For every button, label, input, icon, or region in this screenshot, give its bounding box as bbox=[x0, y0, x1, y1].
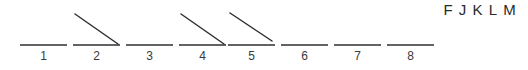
stroke-item-graphic-2 bbox=[73, 0, 120, 50]
stroke-item-2: 2 bbox=[73, 0, 120, 70]
item-number-label-6: 6 bbox=[281, 50, 328, 62]
diagonal-stroke-5 bbox=[230, 13, 272, 41]
stroke-items-layer: 12345678 bbox=[0, 0, 528, 70]
item-number-label-8: 8 bbox=[387, 50, 434, 62]
item-number-label-3: 3 bbox=[126, 50, 173, 62]
stroke-item-graphic-4 bbox=[179, 0, 226, 50]
item-number-label-2: 2 bbox=[73, 50, 120, 62]
stroke-item-graphic-5 bbox=[228, 0, 275, 50]
stroke-item-7: 7 bbox=[334, 0, 381, 70]
diagonal-stroke-2 bbox=[75, 14, 118, 44]
stroke-item-1: 1 bbox=[20, 0, 67, 70]
stroke-item-4: 4 bbox=[179, 0, 226, 70]
diagonal-stroke-4 bbox=[181, 14, 224, 44]
stroke-item-8: 8 bbox=[387, 0, 434, 70]
stroke-item-graphic-7 bbox=[334, 0, 381, 50]
item-number-label-5: 5 bbox=[228, 50, 275, 62]
stroke-item-graphic-1 bbox=[20, 0, 67, 50]
item-number-label-7: 7 bbox=[334, 50, 381, 62]
stroke-item-graphic-3 bbox=[126, 0, 173, 50]
stroke-item-graphic-6 bbox=[281, 0, 328, 50]
item-number-label-1: 1 bbox=[20, 50, 67, 62]
stroke-item-3: 3 bbox=[126, 0, 173, 70]
stroke-item-graphic-8 bbox=[387, 0, 434, 50]
stroke-item-6: 6 bbox=[281, 0, 328, 70]
stroke-item-5: 5 bbox=[228, 0, 275, 70]
figure-canvas: FJKLM 12345678 bbox=[0, 0, 528, 70]
item-number-label-4: 4 bbox=[179, 50, 226, 62]
